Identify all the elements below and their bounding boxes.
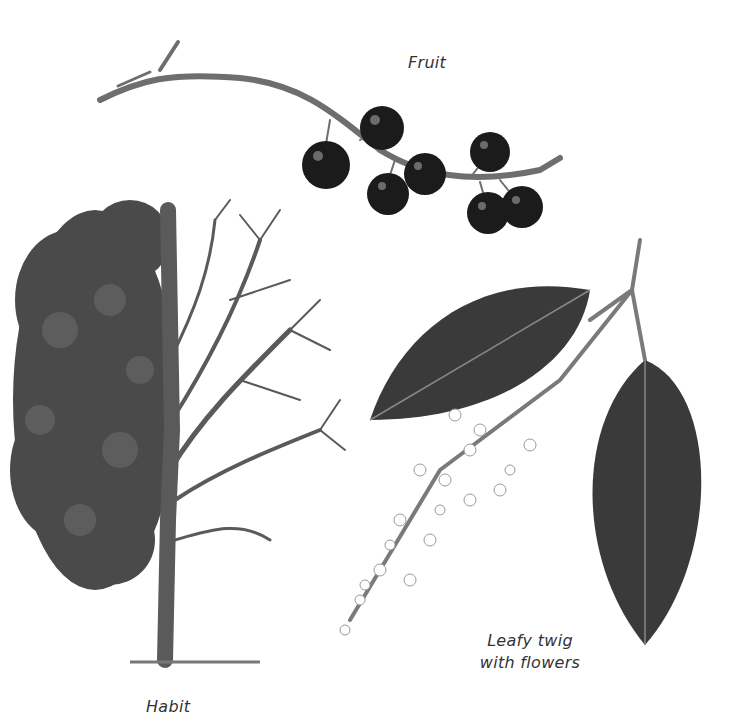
botanical-illustration xyxy=(0,0,747,727)
tree-habit xyxy=(10,200,345,662)
leafy-twig xyxy=(340,240,701,645)
leafy-twig-label: Leafy twig with flowers xyxy=(460,630,600,674)
leafy-twig-label-line2: with flowers xyxy=(460,652,600,674)
habit-label: Habit xyxy=(146,696,190,718)
fruit-label: Fruit xyxy=(408,52,446,74)
leafy-twig-label-line1: Leafy twig xyxy=(460,630,600,652)
fruit-berries xyxy=(302,106,543,234)
